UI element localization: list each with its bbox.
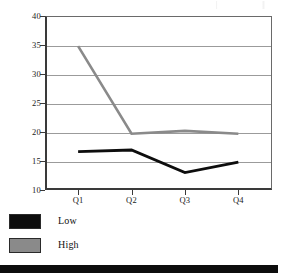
y-tick-mark <box>40 45 45 46</box>
y-tick-label: 35 <box>15 41 41 50</box>
bottom-rule <box>0 265 278 273</box>
x-tick-label: Q1 <box>63 196 93 205</box>
y-tick-mark <box>40 74 45 75</box>
y-tick-mark <box>40 161 45 162</box>
y-tick-label: 15 <box>15 157 41 166</box>
x-tick-label: Q4 <box>223 196 253 205</box>
y-tick-mark <box>40 190 45 191</box>
gridline <box>47 75 271 76</box>
x-tick-label: Q3 <box>170 196 200 205</box>
gridline <box>47 104 271 105</box>
y-tick-mark <box>40 16 45 17</box>
gridline <box>47 133 271 134</box>
x-tick-label: Q2 <box>117 196 147 205</box>
y-tick-label: 20 <box>15 128 41 137</box>
plot-frame <box>45 16 272 190</box>
gridline <box>47 162 271 163</box>
legend-item-high: High <box>9 233 139 257</box>
y-tick-label: 25 <box>15 99 41 108</box>
legend-label-low: Low <box>58 216 77 226</box>
legend-swatch-high <box>9 238 41 253</box>
y-tick-mark <box>40 132 45 133</box>
legend-swatch-low <box>9 214 41 229</box>
y-tick-label: 40 <box>15 12 41 21</box>
line-chart: 40353025201510 Q1Q2Q3Q4 <box>0 0 290 205</box>
chart-legend: Low High <box>9 209 139 257</box>
y-tick-label: 30 <box>15 70 41 79</box>
gridline <box>47 46 271 47</box>
legend-item-low: Low <box>9 209 139 233</box>
y-tick-mark <box>40 103 45 104</box>
y-tick-label: 10 <box>15 186 41 195</box>
legend-label-high: High <box>58 240 79 250</box>
